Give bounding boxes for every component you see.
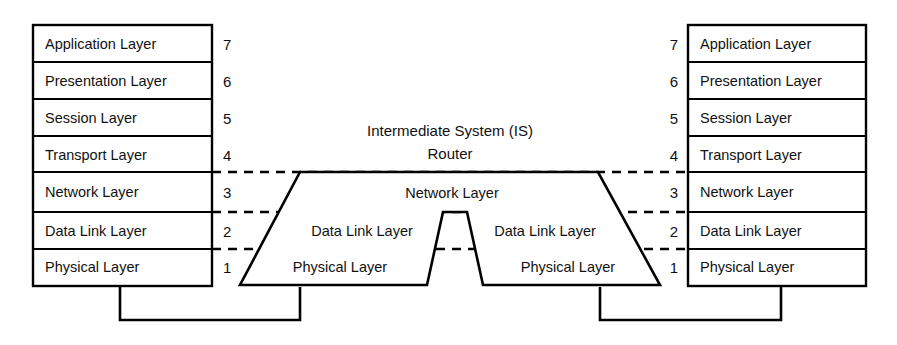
right-layer-number-6: 6 bbox=[670, 73, 678, 90]
right-layer-number-1: 1 bbox=[670, 259, 678, 276]
right-layer-number-4: 4 bbox=[670, 147, 678, 164]
right-layer-numbers: 7 6 5 4 3 2 1 bbox=[670, 36, 678, 276]
osi-diagram-svg: Application Layer Presentation Layer Ses… bbox=[0, 0, 897, 345]
left-layer-number-6: 6 bbox=[223, 73, 231, 90]
right-layer-label-application: Application Layer bbox=[700, 36, 811, 52]
router-physical-left-label: Physical Layer bbox=[293, 259, 387, 275]
right-layer-label-physical: Physical Layer bbox=[700, 259, 794, 275]
right-layer-number-2: 2 bbox=[670, 223, 678, 240]
right-layer-label-network: Network Layer bbox=[700, 184, 794, 200]
connector-right-link bbox=[600, 286, 781, 320]
router-network-layer-label: Network Layer bbox=[405, 185, 499, 201]
right-layer-label-datalink: Data Link Layer bbox=[700, 223, 802, 239]
left-layer-numbers: 7 6 5 4 3 2 1 bbox=[223, 36, 231, 276]
right-layer-label-transport: Transport Layer bbox=[700, 147, 802, 163]
left-layer-number-5: 5 bbox=[223, 110, 231, 127]
router-datalink-right-label: Data Link Layer bbox=[494, 223, 596, 239]
left-layer-label-session: Session Layer bbox=[45, 110, 137, 126]
right-layer-label-session: Session Layer bbox=[700, 110, 792, 126]
right-layer-number-7: 7 bbox=[670, 36, 678, 53]
left-stack: Application Layer Presentation Layer Ses… bbox=[33, 25, 212, 286]
left-layer-number-3: 3 bbox=[223, 184, 231, 201]
router-datalink-left-label: Data Link Layer bbox=[311, 223, 413, 239]
connector-brackets bbox=[120, 286, 781, 320]
left-layer-label-network: Network Layer bbox=[45, 184, 139, 200]
right-stack: Application Layer Presentation Layer Ses… bbox=[688, 25, 866, 286]
left-layer-number-4: 4 bbox=[223, 147, 231, 164]
left-layer-label-presentation: Presentation Layer bbox=[45, 73, 167, 89]
left-layer-label-transport: Transport Layer bbox=[45, 147, 147, 163]
connector-left-link bbox=[120, 286, 300, 320]
router-physical-right-label: Physical Layer bbox=[521, 259, 615, 275]
router-title-line2: Router bbox=[427, 145, 472, 162]
left-layer-number-2: 2 bbox=[223, 223, 231, 240]
right-layer-number-3: 3 bbox=[670, 184, 678, 201]
left-layer-label-datalink: Data Link Layer bbox=[45, 223, 147, 239]
right-layer-number-5: 5 bbox=[670, 110, 678, 127]
osi-diagram: Application Layer Presentation Layer Ses… bbox=[0, 0, 897, 345]
left-layer-number-1: 1 bbox=[223, 259, 231, 276]
right-layer-label-presentation: Presentation Layer bbox=[700, 73, 822, 89]
left-layer-number-7: 7 bbox=[223, 36, 231, 53]
left-layer-label-application: Application Layer bbox=[45, 36, 156, 52]
router-title-line1: Intermediate System (IS) bbox=[367, 122, 533, 139]
left-layer-label-physical: Physical Layer bbox=[45, 259, 139, 275]
